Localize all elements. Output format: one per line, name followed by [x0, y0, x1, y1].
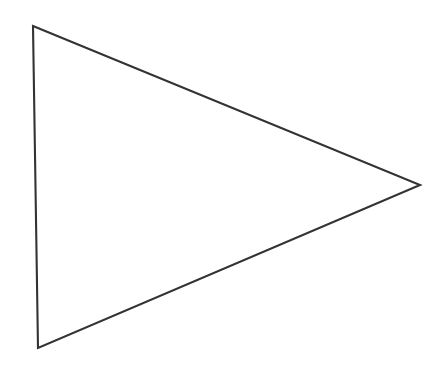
drawing-canvas	[0, 0, 446, 374]
figure-canvas-svg	[0, 0, 446, 374]
canvas-background	[0, 0, 446, 374]
